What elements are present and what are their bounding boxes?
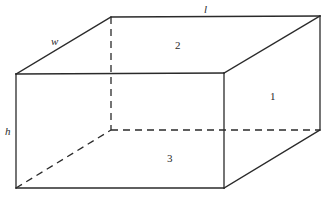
edge-back-top [111,16,320,17]
face-label-bottom: 3 [167,152,173,164]
edge-top-right-depth [224,16,320,73]
length-label: l [204,3,207,15]
edge-top-left-depth [16,17,111,74]
edge-bottom-right-depth [224,130,320,188]
face-label-right: 1 [270,90,276,102]
rectangular-prism-diagram: w l h 2 1 3 [0,0,324,197]
face-label-top: 2 [175,39,181,51]
edge-front-top [16,73,224,74]
edge-bottom-left-depth-hidden [16,130,111,188]
height-label: h [5,125,11,137]
width-label: w [51,35,59,47]
